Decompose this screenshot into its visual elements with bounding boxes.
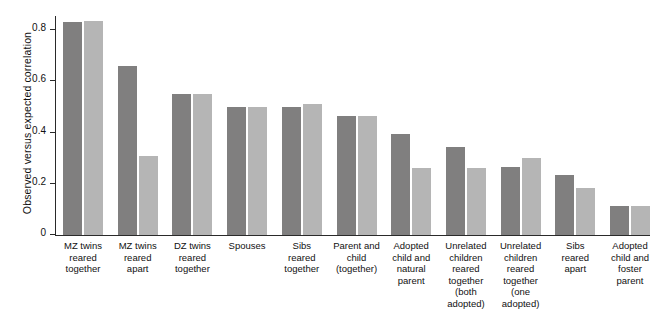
x-axis-category-label-line: reared	[164, 252, 220, 264]
bar-expected	[358, 116, 377, 235]
x-axis-category-label-line: Sibs	[274, 240, 330, 252]
x-axis-category-label: Unrelatedchildrenrearedtogether(bothadop…	[438, 240, 494, 310]
x-axis-category-labels: MZ twinsrearedtogetherMZ twinsrearedapar…	[55, 240, 650, 321]
x-axis-category-label-line: Spouses	[219, 240, 275, 252]
bar-observed	[282, 107, 301, 235]
bar-observed	[610, 206, 629, 235]
x-axis-category-label-line: foster	[602, 263, 654, 275]
bar-expected	[522, 158, 541, 235]
x-axis-category-label: MZ twinsrearedapart	[110, 240, 166, 275]
x-axis-category-label-line: child	[329, 252, 385, 264]
x-axis-category-label-line: natural	[383, 263, 439, 275]
x-axis-category-label-line: reared	[110, 252, 166, 264]
x-axis-category-label-line: Adopted	[383, 240, 439, 252]
x-axis-category-label-line: reared	[55, 252, 111, 264]
x-axis-category-label-line: Unrelated	[438, 240, 494, 252]
bar-observed	[391, 134, 410, 235]
x-axis-category-label-line: DZ twins	[164, 240, 220, 252]
bar-observed	[118, 66, 137, 235]
x-axis-category-label-line: together	[55, 263, 111, 275]
bar-observed	[172, 94, 191, 235]
bar-expected	[84, 21, 103, 235]
x-axis-category-label-line: Parent and	[329, 240, 385, 252]
x-axis-category-label-line: MZ twins	[110, 240, 166, 252]
x-axis-category-label-line: parent	[383, 275, 439, 287]
y-axis-tick-label: 0.8	[32, 22, 46, 33]
x-axis-category-label: Unrelatedchildrenrearedtogether(oneadopt…	[493, 240, 549, 310]
y-axis-tick-label: 0.4	[32, 125, 46, 136]
x-axis-category-label-line: Unrelated	[493, 240, 549, 252]
bar-expected	[303, 104, 322, 235]
x-axis-category-label: MZ twinsrearedtogether	[55, 240, 111, 275]
x-axis-line	[55, 235, 650, 236]
y-axis-tick-label: 0.2	[32, 176, 46, 187]
x-axis-category-label-line: reared	[493, 263, 549, 275]
x-axis-category-label: Adoptedchild andnaturalparent	[383, 240, 439, 286]
x-axis-category-label-line: (together)	[329, 263, 385, 275]
x-axis-category-label: Sibsrearedapart	[547, 240, 603, 275]
x-axis-category-label-line: (one	[493, 286, 549, 298]
bars-layer	[55, 16, 650, 235]
x-axis-category-label-line: together	[164, 263, 220, 275]
x-axis-category-label-line: children	[493, 252, 549, 264]
x-axis-category-label-line: child and	[602, 252, 654, 264]
x-axis-category-label-line: reared	[438, 263, 494, 275]
x-axis-category-label: Sibsrearedtogether	[274, 240, 330, 275]
x-axis-category-label-line: (both	[438, 286, 494, 298]
bar-chart: Observed versus expected correlation 00.…	[0, 0, 654, 321]
x-axis-category-label-line: adopted)	[438, 298, 494, 310]
x-axis-category-label-line: together	[438, 275, 494, 287]
bar-expected	[193, 94, 212, 235]
x-axis-category-label-line: together	[274, 263, 330, 275]
y-axis-title: Observed versus expected correlation	[21, 13, 33, 233]
bar-expected	[467, 168, 486, 235]
bar-observed	[337, 116, 356, 235]
x-axis-category-label-line: Adopted	[602, 240, 654, 252]
bar-expected	[631, 206, 650, 235]
bar-observed	[555, 175, 574, 235]
bar-expected	[412, 168, 431, 235]
plot-area: 00.20.40.60.8	[55, 16, 650, 235]
x-axis-category-label-line: adopted)	[493, 298, 549, 310]
x-axis-category-label-line: reared	[274, 252, 330, 264]
bar-observed	[227, 107, 246, 235]
y-axis-tick-label: 0	[40, 227, 46, 238]
bar-observed	[501, 167, 520, 235]
x-axis-category-label-line: children	[438, 252, 494, 264]
bar-expected	[139, 156, 158, 235]
x-axis-category-label: DZ twinsrearedtogether	[164, 240, 220, 275]
x-axis-category-label-line: apart	[547, 263, 603, 275]
x-axis-category-label-line: apart	[110, 263, 166, 275]
bar-observed	[63, 22, 82, 235]
bar-expected	[248, 107, 267, 235]
x-axis-category-label-line: together	[493, 275, 549, 287]
bar-observed	[446, 147, 465, 235]
y-axis-tick-label: 0.6	[32, 73, 46, 84]
bar-expected	[576, 188, 595, 235]
x-axis-category-label: Spouses	[219, 240, 275, 252]
x-axis-category-label-line: Sibs	[547, 240, 603, 252]
x-axis-category-label: Parent andchild(together)	[329, 240, 385, 275]
x-axis-category-label-line: reared	[547, 252, 603, 264]
x-axis-category-label: Adoptedchild andfosterparent	[602, 240, 654, 286]
x-axis-category-label-line: MZ twins	[55, 240, 111, 252]
x-axis-category-label-line: parent	[602, 275, 654, 287]
x-axis-category-label-line: child and	[383, 252, 439, 264]
